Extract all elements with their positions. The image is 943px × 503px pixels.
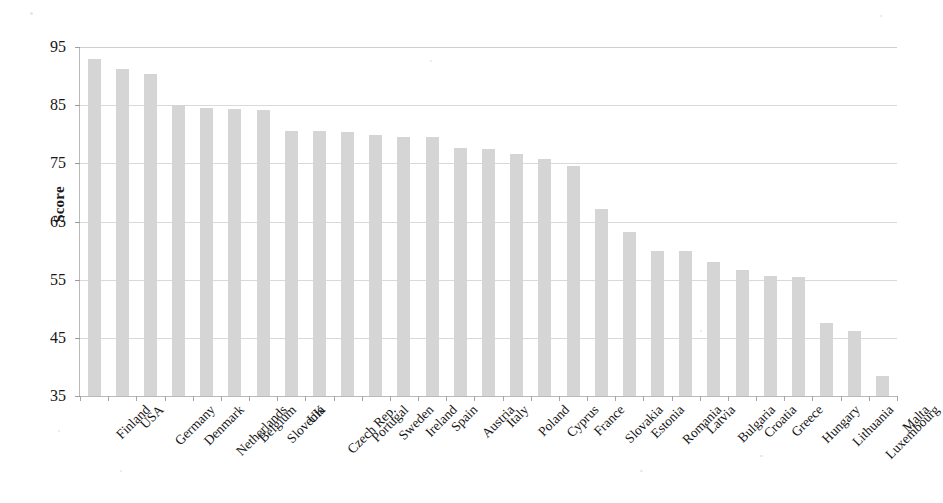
bar — [595, 209, 608, 396]
bar — [764, 276, 777, 396]
bar — [88, 59, 101, 396]
scan-speckle — [120, 470, 122, 472]
bar — [454, 148, 467, 396]
x-tick-mark — [277, 396, 278, 401]
x-tick-mark — [193, 396, 194, 401]
x-axis-labels: FinlandUSAGermanyDenmarkNetherlandsBelgi… — [79, 402, 909, 502]
bar — [736, 270, 749, 396]
bar — [567, 166, 580, 396]
scan-speckle — [640, 470, 643, 472]
scan-speckle — [880, 15, 882, 17]
bar — [876, 376, 889, 396]
bars-layer — [80, 47, 897, 396]
bar — [116, 69, 129, 396]
x-tick-mark — [615, 396, 616, 401]
x-tick-mark — [136, 396, 137, 401]
x-tick-mark — [643, 396, 644, 401]
bar — [341, 132, 354, 396]
bar — [285, 131, 298, 396]
x-tick-mark — [841, 396, 842, 401]
plot-area: 35455565758595 — [79, 47, 897, 397]
x-tick-mark — [812, 396, 813, 401]
x-tick-mark — [587, 396, 588, 401]
bar — [707, 262, 720, 396]
x-tick-mark — [165, 396, 166, 401]
y-tick-label: 35 — [22, 387, 66, 405]
x-tick-mark — [446, 396, 447, 401]
bar — [228, 109, 241, 396]
x-tick-mark — [108, 396, 109, 401]
bar — [792, 277, 805, 396]
y-tick-label: 95 — [22, 38, 66, 56]
bar — [482, 149, 495, 396]
y-axis-title: Score — [51, 160, 68, 250]
bar — [820, 323, 833, 396]
x-tick-mark — [305, 396, 306, 401]
x-tick-mark — [334, 396, 335, 401]
x-tick-mark — [672, 396, 673, 401]
bar — [144, 74, 157, 396]
x-tick-mark — [362, 396, 363, 401]
bar — [848, 331, 861, 396]
bar — [313, 131, 326, 396]
x-tick-mark — [869, 396, 870, 401]
bar — [257, 110, 270, 396]
y-tick-label: 45 — [22, 329, 66, 347]
x-tick-mark — [249, 396, 250, 401]
bar — [651, 251, 664, 396]
scan-speckle — [760, 455, 763, 457]
y-tick-label: 75 — [22, 154, 66, 172]
x-tick-mark — [784, 396, 785, 401]
x-tick-mark — [531, 396, 532, 401]
bar — [679, 251, 692, 396]
x-tick-label: Poland — [535, 402, 573, 440]
x-tick-mark — [221, 396, 222, 401]
x-tick-mark — [897, 396, 898, 401]
bar — [510, 154, 523, 396]
y-tick-label: 65 — [22, 213, 66, 231]
x-tick-mark — [728, 396, 729, 401]
scan-speckle — [30, 12, 33, 15]
x-tick-mark — [80, 396, 81, 401]
x-tick-mark — [418, 396, 419, 401]
x-tick-mark — [700, 396, 701, 401]
bar — [369, 135, 382, 396]
bar — [172, 105, 185, 396]
bar — [200, 108, 213, 397]
scan-speckle — [700, 330, 702, 332]
bar — [623, 232, 636, 396]
scan-speckle — [58, 430, 60, 432]
bar — [397, 137, 410, 396]
x-tick-mark — [474, 396, 475, 401]
x-tick-mark — [503, 396, 504, 401]
y-tick-label: 55 — [22, 271, 66, 289]
x-tick-mark — [756, 396, 757, 401]
x-tick-mark — [559, 396, 560, 401]
y-tick-label: 85 — [22, 96, 66, 114]
scan-speckle — [430, 60, 432, 62]
x-tick-mark — [390, 396, 391, 401]
bar — [538, 159, 551, 396]
bar — [426, 137, 439, 396]
